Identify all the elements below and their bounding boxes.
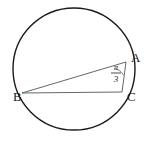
angle-numerator-label: π (114, 62, 119, 72)
geometry-figure: π 3 A B C (0, 0, 148, 141)
segment-ac (122, 62, 126, 92)
point-label-b: B (13, 89, 22, 104)
segment-bc (22, 92, 122, 93)
point-label-c: C (127, 89, 136, 104)
point-label-a: A (131, 50, 141, 65)
angle-denominator-label: 3 (113, 74, 119, 84)
segment-ba (22, 62, 126, 93)
geometry-canvas: π 3 A B C (0, 0, 148, 141)
